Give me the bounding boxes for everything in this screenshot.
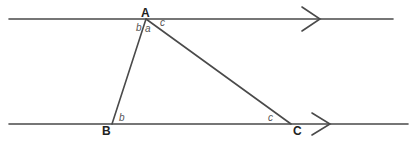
- vertex-label-C: C: [293, 124, 302, 138]
- vertex-label-A: A: [141, 6, 150, 20]
- angle-label-A-left: b: [136, 22, 142, 33]
- side-AC: [146, 19, 291, 124]
- angle-label-B: b: [119, 112, 125, 123]
- angle-label-A-mid: a: [145, 23, 151, 34]
- angle-label-A-right: c: [160, 17, 165, 28]
- vertex-label-B: B: [102, 124, 111, 138]
- angle-label-C: c: [268, 112, 273, 123]
- diagram-canvas: A B C b a c b c: [0, 0, 413, 142]
- side-AB: [112, 19, 146, 124]
